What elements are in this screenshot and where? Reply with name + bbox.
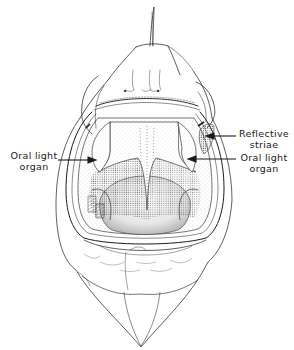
mouth-interior <box>78 118 212 235</box>
label-line-2: striae <box>236 139 292 150</box>
label-line-2: organ <box>236 163 292 174</box>
label-line-1: Reflective <box>236 128 292 139</box>
label-line-1: Oral light <box>8 150 60 161</box>
fish-head-illustration <box>0 0 294 350</box>
snout-outline <box>136 44 180 75</box>
right-cheek <box>196 82 215 128</box>
reflective-striae-shape <box>199 124 214 154</box>
label-line-1: Oral light <box>236 152 292 163</box>
label-oral-light-organ-right: Oral light organ <box>236 152 292 174</box>
upper-jaw <box>96 99 198 107</box>
label-oral-light-organ-left: Oral light organ <box>8 150 60 172</box>
label-line-2: organ <box>8 161 60 172</box>
label-reflective-striae: Reflective striae <box>236 128 292 150</box>
